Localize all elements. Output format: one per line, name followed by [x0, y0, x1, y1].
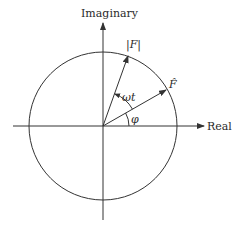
phi-arc [126, 113, 129, 126]
omega-t-label: ωt [122, 91, 136, 104]
phi-label: φ [131, 113, 139, 126]
phasor-label: F̂ [168, 78, 177, 91]
phasor-diagram: Real Imaginary |F| F̂ ωt φ [0, 0, 235, 225]
real-axis-label: Real [207, 120, 232, 133]
magnitude-label: |F| [126, 38, 141, 52]
imaginary-axis-label: Imaginary [81, 7, 139, 20]
